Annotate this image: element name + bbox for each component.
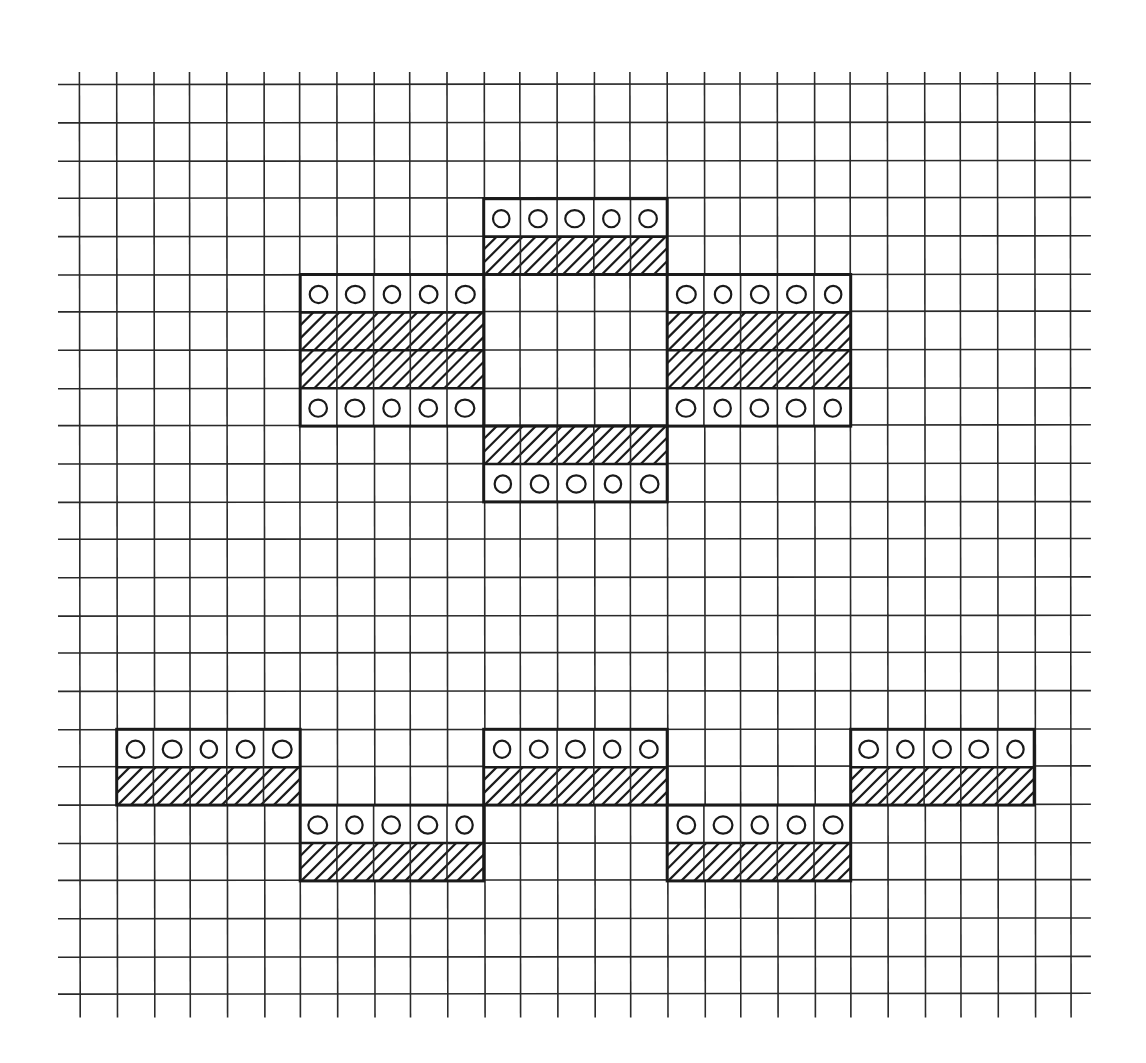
grid-vertical-line — [154, 72, 155, 1018]
grid-horizontal-line — [58, 880, 1091, 881]
grid-horizontal-line — [58, 84, 1091, 85]
grid-horizontal-line — [58, 956, 1091, 957]
grid-horizontal-line — [58, 843, 1091, 844]
grid-horizontal-line — [58, 388, 1091, 389]
grid-horizontal-line — [58, 311, 1091, 312]
grid-vertical-line — [925, 72, 926, 1018]
grid-vertical-line — [227, 72, 228, 1018]
grid-horizontal-line — [58, 691, 1091, 692]
grid-vertical-line — [79, 72, 80, 1018]
bottom-block-5 — [813, 729, 1085, 805]
grid-horizontal-line — [58, 993, 1091, 994]
grid-horizontal-line — [58, 652, 1091, 653]
grid-horizontal-line — [58, 918, 1091, 919]
grid-horizontal-line — [58, 615, 1091, 616]
graph-paper-diagram — [0, 0, 1146, 1063]
grid-horizontal-line — [58, 122, 1091, 123]
grid-vertical-line — [887, 72, 888, 1018]
grid-horizontal-line — [58, 161, 1091, 162]
grid-vertical-line — [960, 72, 961, 1018]
grid-vertical-line — [190, 72, 191, 1018]
grid-horizontal-line — [58, 539, 1091, 540]
bottom-block-3 — [446, 729, 718, 805]
grid-vertical-line — [117, 72, 118, 1018]
grid-horizontal-line — [58, 350, 1091, 351]
grid-vertical-line — [1070, 72, 1071, 1018]
grid-vertical-line — [998, 72, 999, 1018]
grid-horizontal-line — [58, 577, 1091, 578]
grid-vertical-line — [1035, 72, 1036, 1018]
grid-vertical-line — [264, 72, 265, 1018]
